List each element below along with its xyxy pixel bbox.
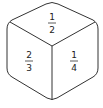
left-denominator: 3 — [26, 63, 32, 73]
cube-edge-top-right — [52, 22, 95, 46]
right-numerator: 1 — [71, 50, 77, 60]
left-numerator: 2 — [26, 50, 32, 60]
fraction-cube: 1 2 2 3 1 4 — [0, 0, 103, 108]
top-denominator: 2 — [49, 25, 55, 35]
right-denominator: 4 — [71, 63, 77, 73]
left-face-fraction: 2 3 — [25, 50, 33, 73]
right-face-fraction: 1 4 — [70, 50, 78, 73]
cube-edge-top-left — [10, 22, 52, 46]
top-numerator: 1 — [49, 12, 55, 22]
top-face-fraction: 1 2 — [48, 12, 56, 35]
